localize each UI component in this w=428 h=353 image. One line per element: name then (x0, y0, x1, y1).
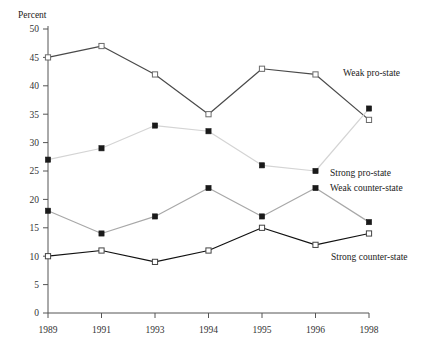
data-point-marker (366, 117, 371, 122)
y-tick-label: 50 (30, 24, 40, 34)
line-chart: 0510152025303540455019891991199319941995… (0, 0, 428, 353)
data-point-marker (45, 254, 50, 259)
data-point-marker (313, 185, 318, 190)
y-axis-title: Percent (18, 10, 47, 20)
data-point-marker (313, 168, 318, 173)
series-label-strong-pro-state: Strong pro-state (330, 168, 391, 178)
chart-container: 0510152025303540455019891991199319941995… (0, 0, 428, 353)
y-tick-label: 25 (30, 166, 40, 176)
y-tick-label: 40 (30, 81, 40, 91)
series-label-weak-counter-state: Weak counter-state (330, 183, 403, 193)
data-point-marker (152, 214, 157, 219)
series-line-strong-counter-state (48, 228, 369, 262)
series-line-weak-counter-state (48, 188, 369, 233)
y-tick-label: 35 (30, 110, 40, 120)
x-tick-label: 1991 (92, 325, 111, 335)
data-point-marker (259, 214, 264, 219)
data-point-marker (152, 123, 157, 128)
series-line-strong-pro-state (48, 109, 369, 171)
y-tick-label: 5 (34, 280, 39, 290)
series-line-weak-pro-state (48, 46, 369, 120)
y-tick-label: 15 (30, 223, 40, 233)
data-point-marker (259, 225, 264, 230)
data-point-marker (259, 163, 264, 168)
y-tick-label: 45 (30, 53, 40, 63)
x-tick-label: 1989 (39, 325, 58, 335)
x-tick-label: 1995 (253, 325, 272, 335)
series-label-weak-pro-state: Weak pro-state (343, 68, 400, 78)
x-tick-label: 1993 (146, 325, 165, 335)
data-point-marker (313, 72, 318, 77)
data-point-marker (99, 248, 104, 253)
x-tick-label: 1996 (306, 325, 325, 335)
data-point-marker (99, 43, 104, 48)
data-point-marker (99, 146, 104, 151)
data-point-marker (45, 157, 50, 162)
data-point-marker (366, 106, 371, 111)
series-label-strong-counter-state: Strong counter-state (331, 252, 408, 262)
y-tick-label: 0 (34, 308, 39, 318)
data-point-marker (152, 259, 157, 264)
data-point-marker (313, 242, 318, 247)
x-tick-label: 1998 (360, 325, 379, 335)
data-point-marker (99, 231, 104, 236)
x-tick-label: 1994 (199, 325, 218, 335)
data-point-marker (45, 55, 50, 60)
data-point-marker (366, 220, 371, 225)
y-tick-label: 10 (30, 252, 40, 262)
data-point-marker (366, 231, 371, 236)
data-point-marker (206, 248, 211, 253)
data-point-marker (206, 129, 211, 134)
y-tick-label: 20 (30, 195, 40, 205)
data-point-marker (259, 66, 264, 71)
data-point-marker (45, 208, 50, 213)
data-point-marker (152, 72, 157, 77)
y-tick-label: 30 (30, 138, 40, 148)
data-point-marker (206, 112, 211, 117)
data-point-marker (206, 185, 211, 190)
